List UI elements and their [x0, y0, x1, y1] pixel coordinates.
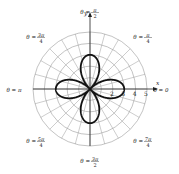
x-axis-label: x [156, 79, 160, 86]
radial-tick-label: 4 [133, 90, 137, 97]
svg-text:θ =: θ = [133, 138, 143, 144]
grid-spoke [62, 40, 91, 89]
radial-tick-label: 2 [110, 90, 114, 97]
angle-label: θ =7π4 [133, 136, 152, 148]
polar-plot: xy 2345 θ = 0θ =π4θ =π2θ =3π4θ = πθ =5π4… [0, 0, 179, 174]
angle-label: θ = 0 [154, 87, 169, 93]
angle-label: θ =5π4 [26, 136, 45, 148]
grid-spoke [50, 89, 90, 129]
angle-label: θ = π [6, 87, 21, 93]
svg-text:2: 2 [93, 13, 96, 19]
svg-text:θ =: θ = [80, 9, 90, 15]
svg-text:θ =: θ = [26, 34, 36, 40]
grid-spoke [41, 61, 90, 90]
grid-spoke [90, 40, 119, 89]
svg-text:θ =: θ = [26, 138, 36, 144]
svg-text:θ = 0: θ = 0 [154, 87, 169, 93]
svg-text:4: 4 [146, 38, 149, 44]
radial-tick-label: 3 [121, 90, 125, 97]
grid-spoke [90, 89, 119, 138]
grid-spoke [62, 89, 91, 138]
grid-spoke [50, 49, 90, 89]
svg-text:4: 4 [146, 142, 149, 148]
svg-text:4: 4 [39, 142, 42, 148]
angle-label: θ =3π4 [26, 32, 45, 44]
angle-label: θ =π4 [133, 32, 152, 44]
angle-label: θ =3π2 [80, 156, 99, 168]
grid-spoke [41, 89, 90, 118]
radial-tick-label: 5 [144, 90, 148, 97]
svg-text:θ =: θ = [133, 34, 143, 40]
grid-spoke [90, 61, 139, 90]
svg-text:θ =: θ = [80, 158, 90, 164]
svg-text:4: 4 [39, 38, 42, 44]
svg-text:2: 2 [93, 162, 96, 168]
grid-spoke [90, 49, 130, 89]
svg-text:θ = π: θ = π [6, 87, 21, 93]
